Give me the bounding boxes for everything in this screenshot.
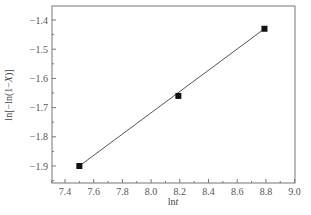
data-point-marker	[76, 163, 82, 169]
y-axis-label: ln[−ln(1−X)]	[3, 69, 15, 120]
fit-line	[79, 29, 264, 166]
y-tick-label: −1.6	[30, 73, 48, 84]
y-tick-label: −1.9	[30, 161, 48, 172]
x-tick-label: 8.6	[231, 186, 244, 197]
data-point-marker	[261, 26, 267, 32]
x-tick-label: 7.6	[87, 186, 100, 197]
x-axis-label: lnt	[168, 196, 179, 207]
y-tick-label: −1.4	[30, 15, 48, 26]
chart: 7.47.67.88.08.28.48.68.89.0 −1.4−1.5−1.6…	[0, 0, 311, 215]
x-tick-label: 7.4	[59, 186, 72, 197]
x-tick-label: 9.0	[288, 186, 301, 197]
y-tick-label: −1.7	[30, 102, 48, 113]
y-tick-label: −1.8	[30, 131, 48, 142]
figure-caption-cropped	[0, 207, 311, 215]
x-tick-label: 7.8	[116, 186, 129, 197]
data-point-marker	[175, 93, 181, 99]
y-tick-label: −1.5	[30, 44, 48, 55]
x-tick-label: 8.8	[260, 186, 273, 197]
x-tick-label: 8.4	[202, 186, 215, 197]
x-axis: 7.47.67.88.08.28.48.68.89.0	[52, 179, 301, 197]
x-tick-label: 8.0	[145, 186, 158, 197]
